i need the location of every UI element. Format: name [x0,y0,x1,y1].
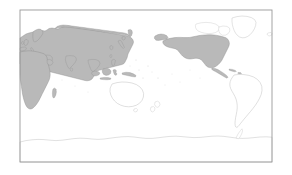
world-map-figure [0,0,292,175]
region-sri-lanka [70,68,72,71]
region-borneo [102,68,111,75]
region-java [100,77,111,79]
region-baffin-island [219,26,230,35]
region-tasmania [134,108,138,112]
world-map-svg [0,0,292,175]
